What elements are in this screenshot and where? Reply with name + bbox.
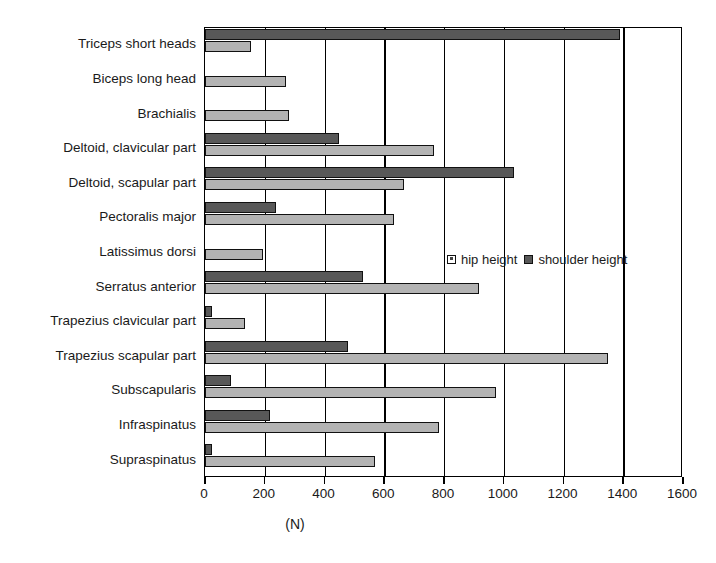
bar-hip-height	[205, 387, 496, 398]
bar-shoulder-height	[205, 167, 514, 178]
bar-hip-height	[205, 76, 286, 87]
x-axis-tick-labels: 02004006008001000120014001600	[0, 486, 716, 506]
y-axis-label: Deltoid, clavicular part	[63, 141, 196, 155]
bar-group	[205, 132, 681, 167]
bar-hip-height	[205, 41, 251, 52]
bar-shoulder-height	[205, 306, 212, 317]
bar-group	[205, 201, 681, 236]
y-axis-label: Latissimus dorsi	[99, 245, 196, 259]
legend-label: hip height	[461, 252, 517, 267]
x-axis-title: (N)	[0, 516, 716, 532]
y-axis-label: Trapezius scapular part	[55, 349, 196, 363]
bar-group	[205, 305, 681, 340]
bar-hip-height	[205, 422, 439, 433]
bar-shoulder-height	[205, 29, 620, 40]
legend-item: hip height	[447, 252, 517, 267]
x-tick-1000	[503, 477, 505, 484]
x-tick-0	[204, 477, 206, 484]
x-tick-label-1000: 1000	[488, 486, 518, 501]
x-tick-600	[383, 477, 385, 484]
bar-shoulder-height	[205, 271, 363, 282]
y-axis-label: Serratus anterior	[95, 280, 196, 294]
y-axis-label: Brachialis	[137, 107, 196, 121]
x-tick-200	[264, 477, 266, 484]
bar-chart: Triceps short headsBiceps long headBrach…	[0, 0, 716, 563]
bar-shoulder-height	[205, 133, 339, 144]
y-axis-label: Pectoralis major	[99, 210, 196, 224]
bar-hip-height	[205, 249, 263, 260]
x-tick-label-1400: 1400	[607, 486, 637, 501]
legend-item: shoulder height	[524, 252, 627, 267]
bar-shoulder-height	[205, 341, 348, 352]
y-axis-label: Subscapularis	[111, 383, 196, 397]
bar-shoulder-height	[205, 375, 231, 386]
chart-title-fragment	[150, 0, 670, 14]
legend-swatch-hip-icon	[447, 255, 456, 264]
bar-group	[205, 374, 681, 409]
bar-group	[205, 28, 681, 63]
bar-group	[205, 166, 681, 201]
y-axis-label: Biceps long head	[92, 72, 196, 86]
bar-hip-height	[205, 456, 375, 467]
bar-hip-height	[205, 283, 479, 294]
x-tick-400	[324, 477, 326, 484]
x-tick-label-200: 200	[252, 486, 275, 501]
bar-shoulder-height	[205, 202, 276, 213]
bar-group	[205, 443, 681, 478]
y-axis-label: Deltoid, scapular part	[68, 176, 196, 190]
legend-swatch-shoulder-icon	[524, 255, 533, 264]
bar-hip-height	[205, 318, 245, 329]
bar-hip-height	[205, 145, 434, 156]
bar-hip-height	[205, 179, 404, 190]
x-tick-label-400: 400	[312, 486, 335, 501]
bar-group	[205, 270, 681, 305]
x-tick-label-800: 800	[432, 486, 455, 501]
bar-hip-height	[205, 214, 394, 225]
y-axis-label: Infraspinatus	[119, 418, 196, 432]
x-tick-label-0: 0	[200, 486, 208, 501]
bar-hip-height	[205, 353, 608, 364]
y-axis-label: Supraspinatus	[110, 453, 196, 467]
x-tick-label-1200: 1200	[547, 486, 577, 501]
y-axis-label: Triceps short heads	[78, 37, 196, 51]
y-axis-category-labels: Triceps short headsBiceps long headBrach…	[0, 27, 200, 477]
x-tick-800	[443, 477, 445, 484]
chart-legend: hip heightshoulder height	[447, 252, 627, 267]
bar-group	[205, 63, 681, 98]
bar-group	[205, 97, 681, 132]
bar-shoulder-height	[205, 444, 212, 455]
y-axis-label: Trapezius clavicular part	[50, 314, 196, 328]
x-tick-1400	[622, 477, 624, 484]
bar-group	[205, 340, 681, 375]
bar-shoulder-height	[205, 410, 270, 421]
x-tick-1600	[682, 477, 684, 484]
x-axis-title-text: (N)	[285, 516, 304, 532]
legend-label: shoulder height	[538, 252, 627, 267]
x-tick-label-1600: 1600	[667, 486, 697, 501]
bar-group	[205, 409, 681, 444]
x-tick-label-600: 600	[372, 486, 395, 501]
bar-hip-height	[205, 110, 289, 121]
x-tick-1200	[563, 477, 565, 484]
x-axis-ticks	[204, 477, 682, 485]
